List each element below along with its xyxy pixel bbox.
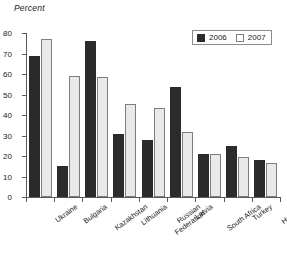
legend-swatch-2006-icon: [197, 34, 205, 42]
y-axis-tick-label: 20: [3, 152, 12, 161]
legend-entry-2006: 2006: [197, 33, 227, 42]
bar-2006-turkey: [226, 146, 237, 197]
bar-2007-turkey: [238, 157, 249, 197]
bar-2006-kazakhstan: [85, 41, 96, 197]
bar-2007-hungary: [266, 163, 277, 197]
bar-2007-latvia: [182, 132, 193, 197]
x-axis-tick: [280, 197, 281, 202]
x-axis-label-bulgaria: Bulgaria: [83, 203, 110, 226]
x-axis-labels: UkraineBulgariaKazakhstanLithuaniaRussia…: [26, 197, 280, 254]
plot-area: 01020304050607080: [26, 33, 280, 197]
x-axis-label-hungary: Hungary: [280, 203, 287, 226]
bar-2007-lithuania: [125, 104, 136, 197]
bar-2007-ukraine: [41, 39, 52, 197]
bar-2007-kazakhstan: [97, 77, 108, 197]
bar-2006-bulgaria: [57, 166, 68, 197]
y-axis-tick-label: 80: [3, 29, 12, 38]
legend: 2006 2007: [192, 30, 272, 45]
bar-2007-russian-federation: [154, 108, 165, 197]
bar-2006-ukraine: [29, 56, 40, 197]
legend-entry-2007: 2007: [236, 33, 266, 42]
bars-layer: [26, 33, 280, 197]
y-axis-tick-label: 70: [3, 49, 12, 58]
legend-label-2006: 2006: [209, 33, 227, 42]
bar-2007-bulgaria: [69, 76, 80, 197]
y-axis-tick-label: 30: [3, 131, 12, 140]
y-axis-tick-label: 50: [3, 90, 12, 99]
bar-chart: Percent 01020304050607080 UkraineBulgari…: [0, 0, 287, 254]
bar-2006-lithuania: [113, 134, 124, 197]
bar-2006-hungary: [254, 160, 265, 197]
bar-2006-latvia: [170, 87, 181, 197]
bar-2006-south-africa: [198, 154, 209, 197]
legend-label-2007: 2007: [248, 33, 266, 42]
y-axis-tick-label: 10: [3, 172, 12, 181]
y-axis-tick-label: 0: [8, 193, 12, 202]
bar-2007-south-africa: [210, 154, 221, 197]
y-axis-tick-label: 40: [3, 111, 12, 120]
x-axis-label-ukraine: Ukraine: [54, 203, 80, 225]
bar-2006-russian-federation: [142, 140, 153, 197]
y-axis-title: Percent: [14, 3, 45, 13]
y-axis-tick-label: 60: [3, 70, 12, 79]
legend-swatch-2007-icon: [236, 34, 244, 42]
